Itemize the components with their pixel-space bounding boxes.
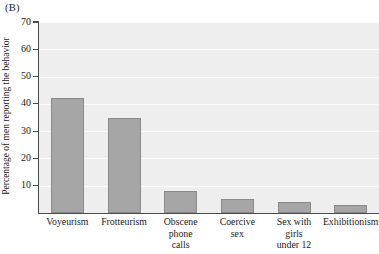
y-tick-label-50: 50 — [0, 71, 31, 81]
x-tick-label-line: girls — [261, 228, 328, 240]
y-tick-mark-40 — [33, 103, 39, 104]
y-tick-mark-50 — [33, 76, 39, 77]
bar — [334, 205, 367, 213]
bar — [278, 202, 311, 213]
y-tick-mark-20 — [33, 158, 39, 159]
y-tick-label-20: 20 — [0, 153, 31, 163]
y-tick-mark-70 — [33, 21, 39, 22]
gridline-20 — [39, 158, 379, 159]
y-tick-label-30: 30 — [0, 126, 31, 136]
bar — [108, 118, 141, 214]
plot-area — [39, 22, 379, 213]
x-tick-label-line: Exhibitionism — [317, 216, 379, 228]
gridline-50 — [39, 77, 379, 78]
y-axis-title: Percentage of men reporting the behavior — [2, 37, 12, 194]
panel-label: (B) — [5, 3, 20, 14]
y-tick-label-10: 10 — [0, 180, 31, 190]
gridline-60 — [39, 49, 379, 50]
gridline-40 — [39, 104, 379, 105]
x-tick-label-line: under 12 — [261, 239, 328, 251]
y-tick-label-60: 60 — [0, 44, 31, 54]
y-tick-mark-30 — [33, 131, 39, 132]
x-tick-label: Exhibitionism — [317, 216, 379, 228]
x-axis-tick-labels: VoyeurismFrotteurismObscenephonecallsCoe… — [39, 216, 379, 254]
bar — [221, 199, 254, 213]
gridline-70 — [39, 22, 379, 23]
x-axis-line — [38, 213, 379, 214]
y-tick-label-40: 40 — [0, 98, 31, 108]
y-tick-mark-60 — [33, 49, 39, 50]
gridline-30 — [39, 131, 379, 132]
gridline-10 — [39, 186, 379, 187]
bar — [51, 98, 84, 213]
y-tick-mark-10 — [33, 185, 39, 186]
x-tick-label-line: calls — [147, 239, 214, 251]
bar — [164, 191, 197, 213]
y-tick-label-70: 70 — [0, 17, 31, 27]
